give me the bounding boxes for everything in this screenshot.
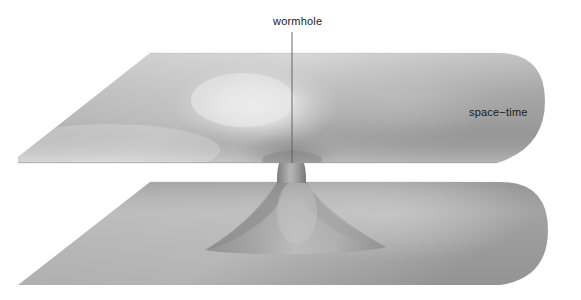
throat-tube bbox=[277, 163, 306, 183]
wormhole-illustration bbox=[0, 0, 581, 300]
upper-spacetime-sheet bbox=[0, 53, 545, 176]
lower-sheet-features bbox=[205, 166, 527, 262]
lower-spacetime-sheet bbox=[18, 166, 548, 285]
wormhole-throat bbox=[277, 163, 306, 183]
upper-sheet-right-glow bbox=[310, 60, 490, 140]
depression-core-highlight bbox=[191, 73, 295, 127]
spacetime-label: space−time bbox=[469, 107, 528, 118]
wormhole-label: wormhole bbox=[273, 16, 322, 27]
wormhole-diagram: wormhole space−time bbox=[0, 0, 581, 300]
upper-sheet-front-light bbox=[0, 124, 220, 176]
funnel-center-highlight bbox=[277, 180, 317, 244]
